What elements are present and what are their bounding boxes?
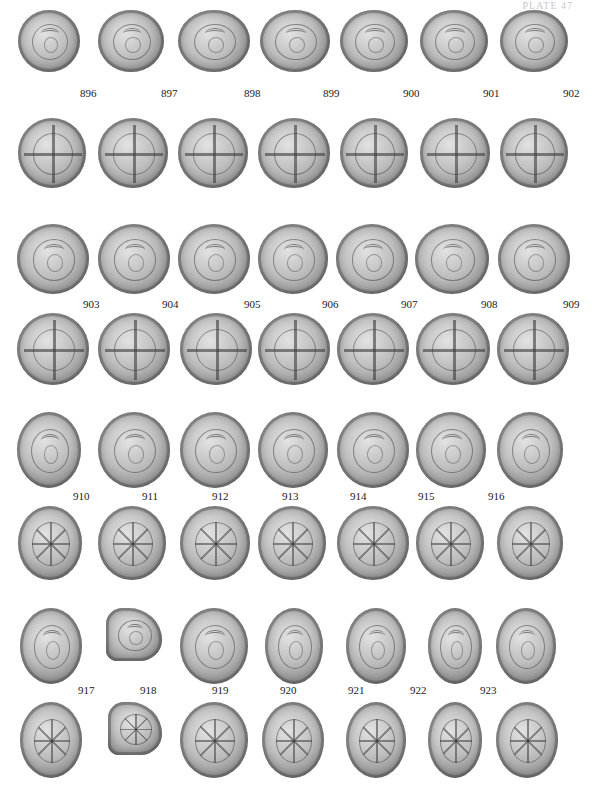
coin-obverse <box>337 412 409 488</box>
coin-reverse <box>17 313 89 385</box>
coin-design <box>353 329 395 371</box>
coin-obverse <box>98 224 170 294</box>
coin-design <box>273 429 314 474</box>
coin-design <box>274 329 316 371</box>
coin-obverse <box>265 608 323 684</box>
coin-number: 917 <box>78 684 95 696</box>
coin-reverse <box>18 118 86 188</box>
coin-reverse <box>420 118 490 188</box>
coin-reverse <box>98 313 170 385</box>
coin-reverse <box>20 702 82 778</box>
coin-obverse <box>336 224 408 294</box>
coin-design <box>512 429 551 474</box>
coin-design <box>114 329 156 371</box>
coin-design <box>194 24 236 61</box>
coin-design <box>113 133 154 174</box>
coin-reverse <box>180 702 248 778</box>
coin-design <box>513 329 555 371</box>
coin-design <box>31 429 69 474</box>
coin-design <box>276 719 313 764</box>
coin-number: 920 <box>280 684 297 696</box>
coin-design <box>114 239 156 280</box>
coin-design <box>120 714 152 746</box>
coin-obverse <box>98 10 164 72</box>
coin-reverse <box>180 506 250 580</box>
coin-design <box>33 329 75 371</box>
coin-design <box>435 24 475 61</box>
coin-design <box>514 239 556 280</box>
coin-reverse <box>500 118 568 188</box>
coin-design <box>431 429 472 474</box>
coin-obverse <box>17 412 81 488</box>
coin-reverse <box>258 313 330 385</box>
coin-design <box>193 133 234 174</box>
coin-number: 915 <box>418 490 435 502</box>
coin-design <box>32 522 70 565</box>
coin-reverse <box>98 118 168 188</box>
coin-number: 912 <box>212 490 229 502</box>
coin-number: 905 <box>244 298 261 310</box>
coin-design <box>34 719 71 764</box>
coin-design <box>359 625 395 670</box>
coin-design <box>33 239 75 280</box>
coin-reverse <box>337 313 409 385</box>
coin-number: 904 <box>162 298 179 310</box>
coin-number: 916 <box>488 490 505 502</box>
coin-number: 896 <box>80 87 97 99</box>
coin-reverse <box>497 313 569 385</box>
coin-design <box>355 24 395 61</box>
coin-design <box>274 133 316 174</box>
coin-design <box>196 329 238 371</box>
coin-design <box>353 522 395 565</box>
coin-number: 913 <box>282 490 299 502</box>
coin-design <box>359 719 395 764</box>
coin-design <box>352 239 394 280</box>
coin-reverse <box>108 702 162 755</box>
coin-design <box>512 522 551 565</box>
coin-reverse <box>428 702 482 778</box>
coin-obverse <box>498 224 570 294</box>
coin-obverse <box>180 412 250 488</box>
coin-reverse <box>18 506 82 580</box>
coin-number: 914 <box>350 490 367 502</box>
coin-design <box>32 24 69 61</box>
coin-obverse <box>497 412 563 488</box>
coin-design <box>431 239 474 280</box>
coin-number: 910 <box>73 490 90 502</box>
coin-design <box>113 522 153 565</box>
coin-design <box>355 133 395 174</box>
coin-reverse <box>262 702 324 778</box>
coin-number: 900 <box>403 87 420 99</box>
coin-design <box>33 133 73 174</box>
coin-obverse <box>416 412 486 488</box>
coin-design <box>195 522 236 565</box>
coin-obverse <box>178 224 250 294</box>
coin-obverse <box>496 608 556 684</box>
coin-design <box>118 620 151 652</box>
coin-design <box>278 625 312 670</box>
coin-obverse <box>428 608 482 684</box>
coin-number: 908 <box>481 298 498 310</box>
coin-design <box>195 429 236 474</box>
coin-number: 902 <box>563 87 580 99</box>
coin-reverse <box>346 702 406 778</box>
coin-design <box>195 625 235 670</box>
coin-number: 922 <box>410 684 427 696</box>
coin-number: 903 <box>83 298 100 310</box>
coin-design <box>273 239 314 280</box>
coin-reverse <box>258 118 330 188</box>
coin-obverse <box>420 10 488 72</box>
coin-number: 909 <box>563 298 580 310</box>
coin-number: 898 <box>244 87 261 99</box>
coin-number: 906 <box>322 298 339 310</box>
coin-obverse <box>178 10 250 72</box>
coin-design <box>440 719 472 764</box>
coin-obverse <box>106 608 162 661</box>
coin-reverse <box>180 313 252 385</box>
coin-obverse <box>98 412 170 488</box>
coin-obverse <box>340 10 408 72</box>
coin-reverse <box>496 702 558 778</box>
coin-obverse <box>180 608 248 684</box>
coin-design <box>432 329 475 371</box>
coin-obverse <box>20 608 82 684</box>
